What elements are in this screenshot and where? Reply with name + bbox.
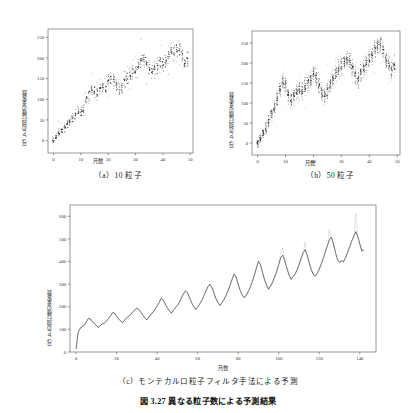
y-tick-label: 100 bbox=[241, 101, 249, 106]
x-tick-label: 50 bbox=[395, 159, 400, 164]
panel-b-plot: 01020304050050100150200250 bbox=[205, 0, 415, 165]
panel-a-plot: 01020304050050100150200250 bbox=[0, 0, 205, 165]
x-tick-label: 60 bbox=[195, 356, 200, 361]
x-tick-label: 40 bbox=[161, 157, 166, 162]
panel-a-xlabel: 月数 bbox=[78, 157, 118, 164]
y-tick-label: 200 bbox=[241, 61, 249, 66]
y-tick-label: 100 bbox=[59, 327, 67, 332]
y-tick-label: 400 bbox=[59, 259, 67, 264]
y-tick-label: 600 bbox=[59, 214, 67, 219]
figure-container: 月ごとの飛行機の乗客数 01020304050050100150200250 月… bbox=[0, 0, 415, 413]
y-tick-label: 200 bbox=[59, 304, 67, 309]
y-tick-label: 0 bbox=[246, 141, 249, 146]
panel-c-xlabel: 月数 bbox=[203, 364, 243, 371]
x-tick-label: 30 bbox=[133, 157, 138, 162]
panel-c-caption: （c）モンテカルロ粒子フィルタ手法による予測 bbox=[58, 375, 358, 386]
x-tick-label: 140 bbox=[356, 356, 364, 361]
x-tick-label: 0 bbox=[75, 356, 78, 361]
panel-b: 月ごとの飛行機の乗客数 01020304050050100150200250 月… bbox=[205, 0, 415, 195]
panel-c: 月ごとの飛行機の乗客数 0204060801001201400100200300… bbox=[0, 195, 415, 413]
x-tick-label: 80 bbox=[236, 356, 241, 361]
x-tick-label: 0 bbox=[256, 159, 259, 164]
y-tick-label: 300 bbox=[59, 282, 67, 287]
panel-b-caption: （b）50 粒子 bbox=[250, 169, 410, 180]
panel-b-xlabel: 月数 bbox=[290, 159, 330, 166]
observed-curve bbox=[53, 49, 187, 139]
y-tick-label: 50 bbox=[39, 118, 44, 123]
panel-c-plot: 0204060801001201400100200300400500600 bbox=[0, 195, 415, 370]
prediction-line bbox=[76, 232, 364, 349]
particle-cloud bbox=[256, 36, 395, 152]
y-tick-label: 150 bbox=[241, 81, 249, 86]
plot-frame bbox=[70, 205, 376, 352]
x-tick-label: 100 bbox=[275, 356, 283, 361]
particle-cloud bbox=[52, 39, 188, 144]
observed-line bbox=[76, 214, 364, 350]
x-tick-label: 120 bbox=[316, 356, 324, 361]
plot-frame bbox=[252, 31, 400, 155]
x-tick-label: 40 bbox=[155, 356, 160, 361]
y-tick-label: 250 bbox=[241, 41, 249, 46]
y-tick-label: 50 bbox=[243, 121, 248, 126]
x-tick-label: 10 bbox=[283, 159, 288, 164]
y-tick-label: 150 bbox=[37, 76, 45, 81]
y-tick-label: 100 bbox=[37, 97, 45, 102]
panel-a-caption: （a）10 粒子 bbox=[38, 169, 198, 180]
y-tick-label: 200 bbox=[37, 56, 45, 61]
y-tick-label: 250 bbox=[37, 35, 45, 40]
x-tick-label: 40 bbox=[367, 159, 372, 164]
x-tick-label: 50 bbox=[188, 157, 193, 162]
observed-curve bbox=[258, 42, 395, 141]
x-tick-label: 0 bbox=[52, 157, 55, 162]
figure-title: 図 3.27 異なる粒子数による予測結果 bbox=[48, 394, 368, 406]
panel-a: 月ごとの飛行機の乗客数 01020304050050100150200250 月… bbox=[0, 0, 205, 195]
x-tick-label: 30 bbox=[339, 159, 344, 164]
y-tick-label: 0 bbox=[64, 350, 67, 355]
x-tick-label: 20 bbox=[114, 356, 119, 361]
y-tick-label: 0 bbox=[42, 138, 45, 143]
y-tick-label: 500 bbox=[59, 237, 67, 242]
